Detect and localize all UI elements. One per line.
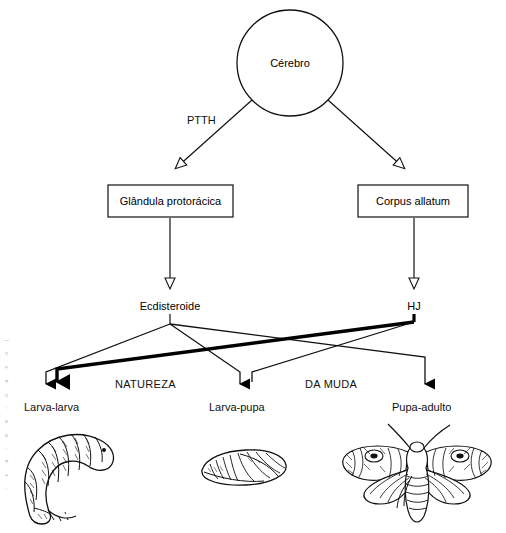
pupa-chrysalis-illustration	[202, 450, 286, 485]
figure-canvas: Cérebro PTTH Glândula protorácica Corpus…	[0, 0, 506, 533]
margin-artifact-glyph: -	[4, 488, 9, 490]
scan-margin-artifact: |osao-ee-a+-	[0, 340, 12, 490]
prothoracic-gland-label: Glândula protorácica	[108, 195, 233, 207]
da-muda-edge-label: DA MUDA	[305, 378, 357, 390]
diagram-vector-layer	[0, 0, 506, 533]
margin-artifact-glyph: -	[4, 407, 9, 409]
brain-node-label: Cérebro	[258, 57, 322, 69]
outcome-label-larva-larva: Larva-larva	[24, 401, 79, 413]
edge-ecdysteroid-to-pupa-adulto	[170, 324, 425, 384]
edge-brain-to-corpus-allatum	[328, 100, 404, 168]
edge-jh-to-larva-larva	[57, 322, 414, 382]
edge-brain-to-prothoracic-gland	[176, 100, 252, 168]
margin-artifact-glyph: e	[4, 434, 9, 437]
outcome-label-larva-pupa: Larva-pupa	[209, 401, 265, 413]
larva-caterpillar-illustration	[25, 434, 114, 524]
margin-artifact-glyph: o	[4, 394, 9, 397]
margin-artifact-glyph: -	[4, 448, 9, 450]
adult-moth-illustration	[343, 424, 491, 522]
outcome-label-pupa-adulto: Pupa-adulto	[392, 401, 451, 413]
ptth-edge-label: PTTH	[187, 114, 216, 126]
edge-ecdysteroid-to-larva-larva	[46, 324, 170, 384]
margin-artifact-glyph: s	[4, 366, 9, 369]
corpus-allatum-label: Corpus allatum	[358, 195, 468, 207]
margin-artifact-glyph: e	[4, 420, 9, 423]
margin-artifact-glyph: +	[4, 474, 9, 477]
margin-artifact-glyph: a	[4, 380, 9, 383]
ecdysteroid-label: Ecdisteroide	[130, 300, 210, 312]
margin-artifact-glyph: |	[4, 340, 9, 341]
natureza-edge-label: NATUREZA	[115, 378, 176, 390]
jh-label: HJ	[394, 300, 434, 312]
margin-artifact-glyph: a	[4, 460, 9, 463]
margin-artifact-glyph: o	[4, 352, 9, 355]
